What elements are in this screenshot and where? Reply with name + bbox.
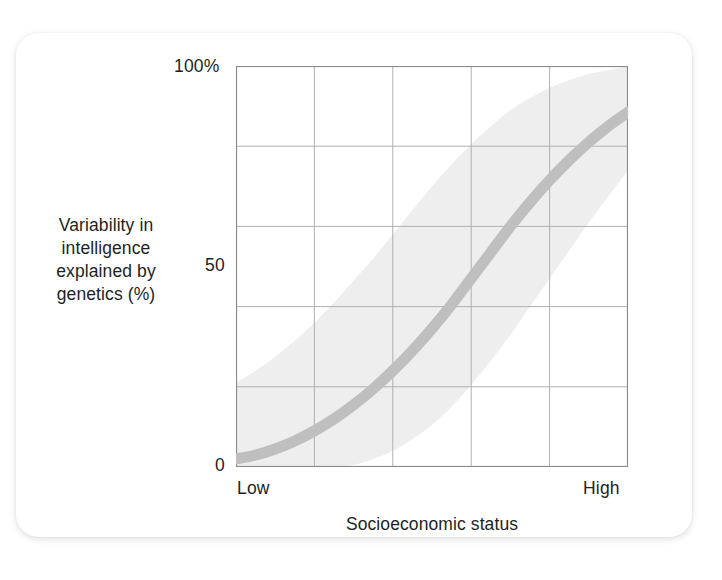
figure-root: Variability in intelligence explained by… — [0, 0, 722, 580]
y-axis-title-line-2: intelligence — [20, 237, 192, 260]
y-axis-title: Variability in intelligence explained by… — [20, 214, 192, 306]
x-tick-label-low: Low — [237, 478, 270, 499]
chart-canvas — [236, 66, 628, 467]
y-tick-label-100: 100% — [174, 56, 220, 77]
x-axis-title: Socioeconomic status — [236, 514, 628, 535]
y-axis-title-line-4: genetics (%) — [20, 283, 192, 306]
y-axis-title-line-3: explained by — [20, 260, 192, 283]
confidence-band — [236, 66, 628, 467]
y-tick-label-50: 50 — [205, 255, 225, 276]
y-tick-label-0: 0 — [215, 455, 225, 476]
plot-area — [236, 66, 628, 467]
y-axis-title-line-1: Variability in — [20, 214, 192, 237]
x-tick-label-high: High — [583, 478, 620, 499]
